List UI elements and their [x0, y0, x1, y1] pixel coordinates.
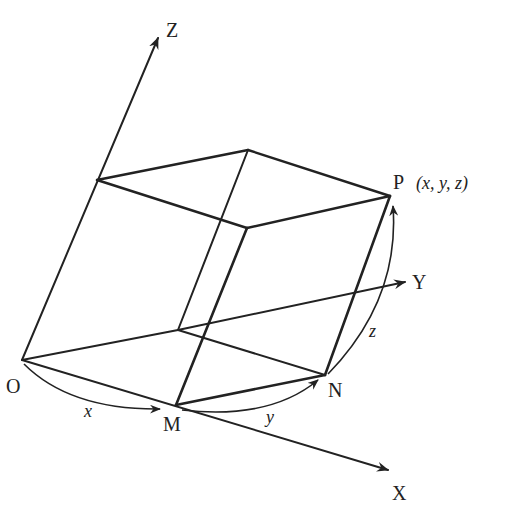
edge-top-left-back	[97, 150, 248, 180]
point-p-coordinates: (x, y, z)	[416, 174, 468, 192]
edge-top-front-p	[247, 196, 390, 228]
z-axis-label: Z	[166, 20, 178, 40]
edge-top-back-p	[248, 150, 390, 196]
point-o-label: O	[6, 376, 20, 396]
edge-top-left-front	[97, 180, 247, 228]
point-p-label: P	[393, 172, 404, 192]
edge-o-b	[22, 330, 178, 360]
point-m-label: M	[163, 414, 181, 434]
y-axis-label: Y	[412, 272, 426, 292]
measure-z-label: z	[369, 322, 376, 340]
z-axis	[22, 38, 158, 360]
arc-x	[24, 364, 160, 409]
edge-b-n	[178, 330, 325, 375]
arc-z	[328, 206, 394, 374]
arc-y	[182, 380, 318, 412]
measure-x-label: x	[84, 402, 92, 420]
measure-y-label: y	[266, 408, 274, 426]
edge-b-topback	[178, 150, 248, 330]
point-n-label: N	[328, 380, 342, 400]
edge-m-topfront	[176, 228, 247, 405]
coordinate-diagram	[0, 0, 511, 523]
edge-n-p	[325, 196, 390, 375]
x-axis	[22, 360, 388, 470]
x-axis-label: X	[392, 483, 406, 503]
